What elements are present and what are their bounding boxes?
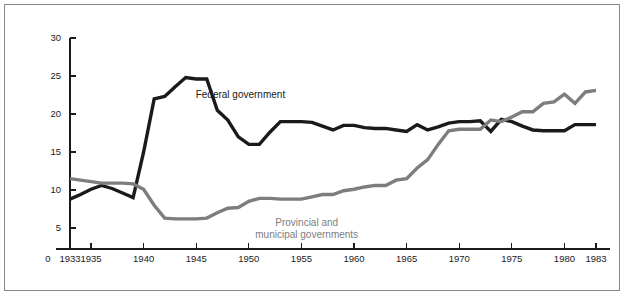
series-line-federal: [70, 78, 596, 200]
data-series-group: [70, 78, 596, 219]
y-tick-label-25: 25: [50, 70, 61, 81]
x-tick-label-1950: 1950: [238, 253, 259, 264]
series-label-provincial-line2: municipal governments: [255, 229, 358, 240]
x-axis-origin-label: 0: [45, 253, 50, 264]
x-tick-label-1940: 1940: [133, 253, 154, 264]
x-tick-label-1933: 1933: [59, 253, 80, 264]
x-tick-label-1960: 1960: [343, 253, 364, 264]
x-tick-label-1975: 1975: [501, 253, 522, 264]
y-tick-label-10: 10: [50, 184, 61, 195]
x-tick-label-1955: 1955: [291, 253, 312, 264]
chart-figure: Taxes as a Percentage of GNP 51015202530…: [0, 0, 624, 295]
line-chart-plot: 5101520253019331935194019451950195519601…: [0, 0, 624, 295]
x-tick-label-1983: 1983: [585, 253, 606, 264]
x-tick-label-1970: 1970: [449, 253, 470, 264]
series-line-provincial-municipal: [70, 90, 596, 218]
y-tick-label-20: 20: [50, 108, 61, 119]
x-tick-label-1965: 1965: [396, 253, 417, 264]
series-label-federal: Federal government: [196, 89, 286, 100]
y-tick-label-30: 30: [50, 32, 61, 43]
y-tick-label-15: 15: [50, 146, 61, 157]
series-label-provincial-line1: Provincial and: [275, 217, 338, 228]
y-tick-label-5: 5: [56, 222, 61, 233]
x-tick-label-1935: 1935: [80, 253, 101, 264]
x-tick-label-1980: 1980: [554, 253, 575, 264]
x-tick-label-1945: 1945: [186, 253, 207, 264]
